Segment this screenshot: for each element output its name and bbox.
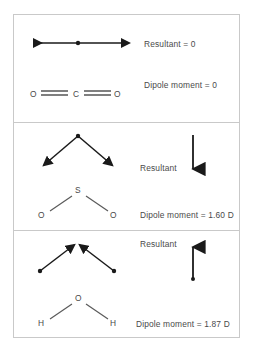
co2-dipole-label: Dipole moment = 0	[144, 80, 217, 90]
water-dipole-label: Dipole moment = 1.87 D	[136, 319, 230, 329]
water-bond-left	[50, 304, 72, 319]
atom-label-o-right: O	[114, 89, 121, 99]
panel-water: O H H Resultant Dipole moment = 1.87 D	[14, 230, 239, 337]
so2-apex-dot	[76, 134, 80, 138]
water-bonds-svg	[22, 293, 134, 337]
atom-label-o-right: O	[110, 210, 117, 220]
water-resultant-arrow	[182, 237, 204, 285]
so2-vector-left	[44, 136, 78, 165]
so2-bonds-svg	[22, 185, 134, 229]
water-bond-right	[86, 304, 108, 319]
water-vector-left	[40, 245, 74, 271]
water-resultant-label: Resultant	[140, 239, 177, 249]
so2-resultant-label: Resultant	[140, 163, 177, 173]
water-bond-vectors	[22, 241, 144, 295]
panel-co2: O C O Resultant = 0 Dipole moment = 0	[14, 15, 239, 122]
water-tail-dot-right	[112, 268, 116, 272]
co2-vector-svg	[22, 23, 134, 63]
water-molecule: O H H	[22, 293, 144, 339]
so2-bond-right	[86, 196, 108, 211]
atom-label-h-left: H	[38, 318, 44, 328]
co2-center-dot	[76, 41, 80, 45]
atom-label-h-right: H	[110, 318, 116, 328]
atom-label-o-left: O	[38, 210, 45, 220]
water-resultant-svg	[182, 237, 204, 285]
so2-resultant-svg	[182, 133, 204, 181]
so2-bond-left	[50, 196, 72, 211]
dipole-moment-figure: O C O Resultant = 0 Dipole moment = 0	[13, 14, 240, 338]
water-vector-svg	[22, 241, 134, 287]
so2-vector-right	[78, 136, 112, 165]
water-vector-right	[80, 245, 114, 271]
so2-dipole-label: Dipole moment = 1.60 D	[140, 210, 234, 220]
water-tail-dot-left	[38, 268, 42, 272]
panel-so2: S O O Resultant Dipole moment = 1.60 D	[14, 122, 239, 229]
atom-label-c-center: C	[73, 89, 79, 99]
so2-vector-svg	[22, 131, 134, 177]
so2-molecule: S O O	[22, 185, 144, 231]
so2-resultant-arrow	[182, 133, 204, 181]
co2-bond-vectors	[22, 23, 144, 77]
co2-molecule: O C O	[22, 73, 144, 119]
co2-resultant-label: Resultant = 0	[144, 39, 196, 49]
so2-bond-vectors	[22, 131, 144, 185]
